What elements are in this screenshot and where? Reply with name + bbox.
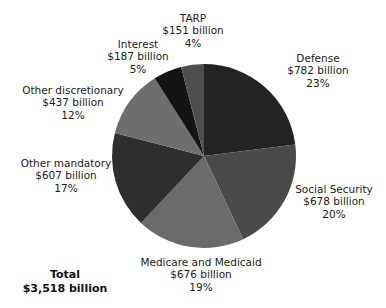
callout-other-discretionary-percent: 12% [8,109,138,121]
callout-defense-percent: 23% [258,77,378,89]
callout-interest-percent: 5% [90,63,186,75]
callout-interest-amount: $187 billion [90,50,186,62]
callout-other-mandatory-percent: 17% [3,182,129,194]
callout-interest: Interest $187 billion 5% [90,38,186,75]
callout-medicare-medicaid-amount: $676 billion [127,268,275,280]
callout-other-mandatory: Other mandatory $607 billion 17% [3,157,129,194]
callout-defense: Defense $782 billion 23% [258,52,378,89]
callout-tarp-amount: $151 billion [145,24,241,36]
callout-defense-amount: $782 billion [258,64,378,76]
callout-medicare-medicaid: Medicare and Medicaid $676 billion 19% [127,256,275,293]
callout-social-security: Social Security $678 billion 20% [283,183,385,220]
callout-medicare-medicaid-percent: 19% [127,281,275,293]
callout-medicare-medicaid-label: Medicare and Medicaid [127,256,275,268]
total-label: Total [12,268,118,282]
callout-social-security-amount: $678 billion [283,195,385,207]
callout-interest-label: Interest [90,38,186,50]
callout-other-discretionary: Other discretionary $437 billion 12% [8,84,138,121]
callout-social-security-percent: 20% [283,208,385,220]
callout-other-mandatory-amount: $607 billion [3,169,129,181]
callout-other-discretionary-amount: $437 billion [8,96,138,108]
total-amount: $3,518 billion [12,282,118,296]
callout-social-security-label: Social Security [283,183,385,195]
pie-chart: TARP $151 billion 4% Interest $187 billi… [0,0,386,308]
callout-defense-label: Defense [258,52,378,64]
pie-slice-group [112,64,296,248]
callout-tarp-label: TARP [145,12,241,24]
callout-other-discretionary-label: Other discretionary [8,84,138,96]
callout-other-mandatory-label: Other mandatory [3,157,129,169]
total-block: Total $3,518 billion [12,268,118,296]
